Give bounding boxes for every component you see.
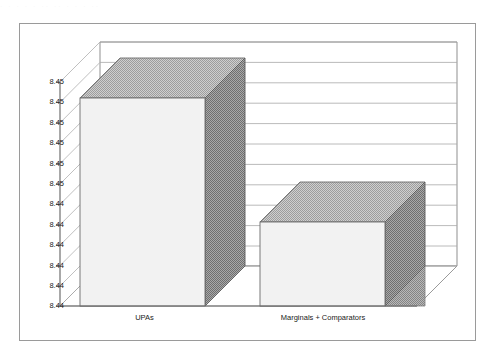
y-tick-label: 8.45 bbox=[30, 139, 64, 147]
bar-marginals-comparators[interactable] bbox=[260, 182, 425, 306]
y-tick-label: 8.45 bbox=[30, 78, 64, 86]
y-tick-label: 8.45 bbox=[30, 98, 64, 106]
bar-upas[interactable] bbox=[80, 58, 245, 306]
y-tick-label: 8.44 bbox=[30, 262, 64, 270]
y-tick-label: 8.44 bbox=[30, 302, 64, 310]
x-tick-label-marginals-comparators: Marginals + Comparators bbox=[248, 313, 398, 322]
y-tick-label: 8.44 bbox=[30, 221, 64, 229]
y-tick-label: 8.45 bbox=[30, 160, 64, 168]
y-tick-label: 8.44 bbox=[30, 282, 64, 290]
bar-upas-side-face bbox=[205, 58, 245, 306]
bar-marginals-front-face bbox=[260, 222, 385, 306]
plot-area-3d bbox=[56, 42, 457, 306]
x-tick-label-upas: UPAs bbox=[82, 313, 207, 322]
y-tick-label: 8.44 bbox=[30, 200, 64, 208]
y-tick-label: 8.44 bbox=[30, 241, 64, 249]
y-tick-label: 8.45 bbox=[30, 119, 64, 127]
scan-edge-artifact: · · · · · ·· ·· · · · ·· bbox=[0, 0, 495, 14]
bar-chart-3d bbox=[20, 24, 477, 342]
y-tick-label: 8.45 bbox=[30, 180, 64, 188]
bar-upas-front-face bbox=[80, 98, 205, 306]
figure-frame: 8.45 8.45 8.45 8.45 8.45 8.45 8.44 8.44 … bbox=[19, 23, 476, 341]
y-axis-tick-labels: 8.45 8.45 8.45 8.45 8.45 8.45 8.44 8.44 … bbox=[26, 24, 64, 342]
